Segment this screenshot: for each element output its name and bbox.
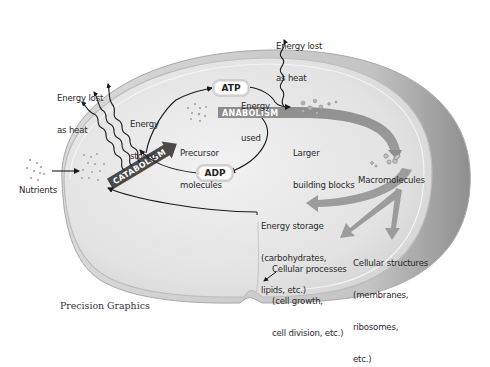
precursor-line1: Precursor	[180, 148, 222, 159]
energy-used-line2: used	[241, 133, 270, 144]
cellular-processes-label: Cellular processes (cell growth, cell di…	[272, 243, 347, 360]
energy-stored-line1: Energy	[130, 119, 159, 130]
storage-line1: Energy storage	[261, 221, 326, 232]
processes-line3: cell division, etc.)	[272, 328, 347, 339]
energy-used-label: Energy used	[241, 80, 270, 165]
energy-used-line1: Energy	[241, 101, 270, 112]
energy-stored-label: Energy stored	[130, 98, 159, 183]
heat-left-line1: Energy lost	[57, 93, 103, 104]
processes-line1: Cellular processes	[272, 264, 347, 275]
precursor-label: Precursor molecules	[180, 127, 222, 212]
energy-stored-line2: stored	[130, 151, 159, 162]
structures-line2: (membranes,	[353, 290, 428, 301]
nutrients-particles-outside	[26, 159, 45, 181]
cellular-structures-label: Cellular structures (membranes, ribosome…	[353, 237, 428, 367]
heat-left-line2: as heat	[57, 125, 103, 136]
nutrients-label: Nutrients	[19, 185, 57, 196]
macromolecules-label: Macromolecules	[358, 175, 425, 186]
credit-label: Precision Graphics	[60, 300, 150, 311]
heat-top-label: Energy lost as heat	[276, 20, 322, 105]
processes-line2: (cell growth,	[272, 296, 347, 307]
heat-top-line2: as heat	[276, 73, 322, 84]
heat-left-label: Energy lost as heat	[57, 72, 103, 157]
structures-line1: Cellular structures	[353, 258, 428, 269]
structures-line4: etc.)	[353, 354, 428, 365]
larger-line1: Larger	[293, 148, 354, 159]
heat-top-line1: Energy lost	[276, 41, 322, 52]
precursor-line2: molecules	[180, 180, 222, 191]
larger-line2: building blocks	[293, 180, 354, 191]
structures-line3: ribosomes,	[353, 322, 428, 333]
